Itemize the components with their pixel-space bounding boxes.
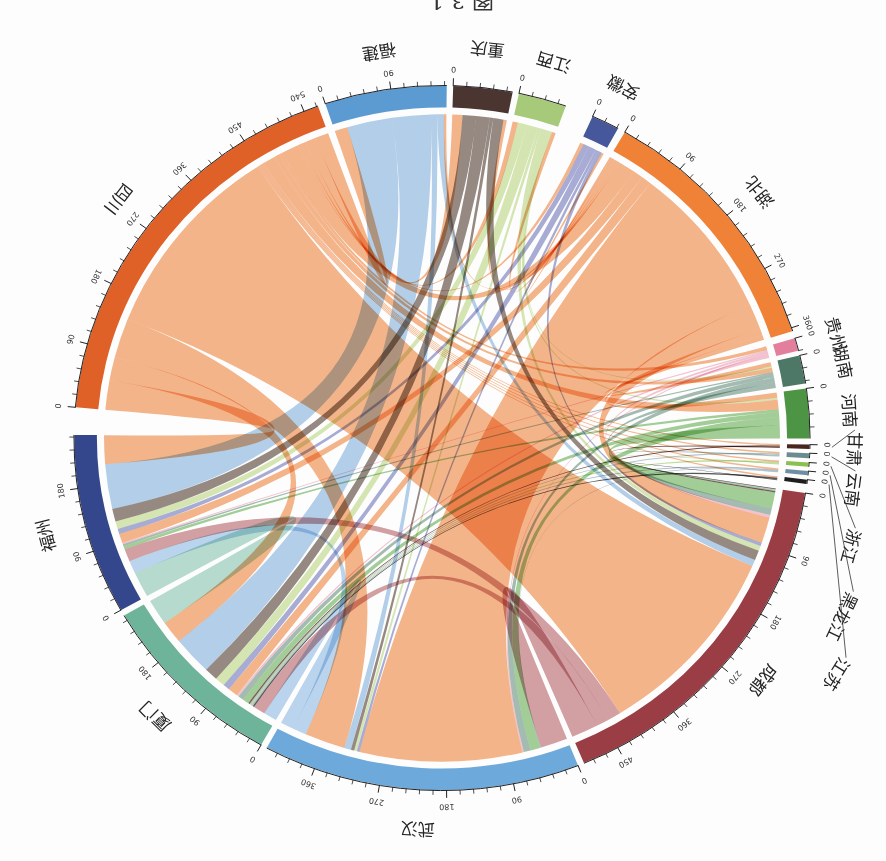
sector-label: 河南: [838, 393, 860, 428]
major-tick: [68, 407, 76, 408]
tick-label: 0: [819, 479, 829, 485]
axis-line: [807, 480, 808, 484]
sector-arc: [787, 444, 810, 449]
tick-label: 90: [383, 68, 394, 78]
tick-label: 0: [54, 403, 63, 409]
tick-label: 0: [821, 461, 830, 467]
major-tick: [809, 463, 817, 464]
sector-label: 武汉: [400, 818, 435, 840]
minor-tick: [404, 83, 405, 88]
chord-diagram: 图 3-1 0901802703604505400900000901802703…: [0, 0, 886, 861]
tick-label: 0: [822, 451, 831, 456]
sector-label: 甘肃: [844, 432, 865, 467]
minor-tick: [480, 83, 481, 88]
minor-tick: [71, 476, 76, 477]
tick-label: 0: [451, 65, 456, 74]
tick-label: 0: [822, 442, 831, 447]
minor-tick: [808, 401, 813, 402]
tick-label: 0: [820, 470, 829, 476]
figure-title: 图 3-1: [430, 0, 494, 13]
sector-label: 重庆: [470, 37, 506, 61]
tick-label: 180: [439, 802, 454, 811]
sector-arc: [784, 388, 810, 438]
